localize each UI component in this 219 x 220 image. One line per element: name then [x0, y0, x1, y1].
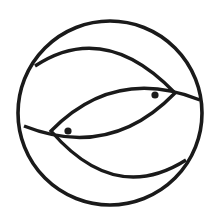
upper-fish-eye-icon [151, 91, 158, 98]
lower-fish-eye-icon [64, 127, 71, 134]
lower-fish-body-icon [51, 88, 200, 177]
two-fish-circle-emblem [0, 0, 219, 220]
emblem-canvas: Two fish (ichthys) in a circle [0, 0, 219, 220]
outer-circle [18, 21, 202, 205]
